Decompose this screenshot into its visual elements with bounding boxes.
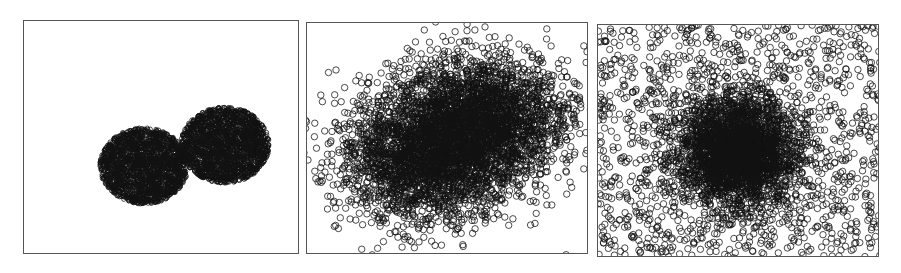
scatter-panel-overlapping-clusters [306, 22, 588, 254]
scatter-panel-cluster-with-noise [597, 24, 879, 257]
scatter-plot-area [598, 25, 879, 257]
scatter-plot-area [307, 23, 588, 254]
scatter-panel-two-separated-clusters [23, 20, 299, 254]
scatter-plot-area [24, 21, 299, 254]
